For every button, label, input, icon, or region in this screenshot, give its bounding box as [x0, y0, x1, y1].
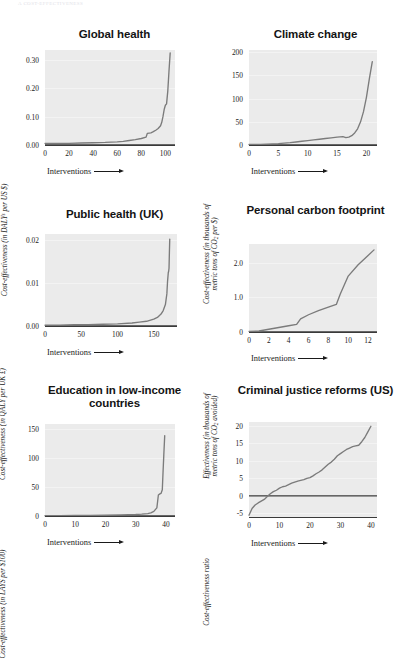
chart-title: Personal carbon footprint [235, 204, 396, 217]
y-tick-label: 5 [239, 474, 243, 483]
x-tick-label: 2 [267, 336, 271, 345]
arrow-right-icon [94, 540, 124, 546]
y-tick-label: 200 [232, 48, 243, 57]
x-tick-label: 8 [327, 336, 331, 345]
y-tick-label: 150 [232, 71, 243, 80]
plot-1: 05010015020005101520Interventions [249, 50, 377, 191]
x-axis-title-text: Interventions [47, 167, 91, 176]
chart-panel-global-health: Global health Cost-effectiveness (in DAL… [0, 22, 201, 202]
x-tick-label: 10 [304, 149, 311, 158]
y-tick-label: 1.0 [234, 293, 243, 302]
x-tick-label: 80 [138, 149, 145, 158]
x-tick-label: 40 [367, 521, 374, 530]
x-axis-line [249, 332, 377, 333]
arrow-right-icon [94, 350, 124, 356]
arrow-right-icon [94, 169, 124, 175]
y-tick-label: 0.00 [26, 141, 39, 150]
chart-panel-climate-change: Climate change Cost-effectiveness (in th… [201, 22, 402, 202]
x-tick-label: 30 [337, 521, 344, 530]
chart-title: Public health (UK) [34, 208, 195, 221]
series-line [249, 244, 377, 332]
chart-panel-criminal-justice: Criminal justice reforms (US) Cost-effec… [201, 382, 402, 576]
x-axis-line [45, 516, 175, 517]
page-header: A COST-EFFECTIVENESS [18, 1, 83, 6]
x-tick-label: 20 [102, 520, 109, 529]
arrow-right-icon [298, 169, 328, 175]
x-axis-title: Interventions [47, 538, 124, 547]
chart-panel-education-low-income: Education in low-income countries Cost-e… [0, 382, 201, 576]
y-tick-label: 100 [28, 453, 39, 462]
x-tick-label: 6 [307, 336, 311, 345]
x-tick-label: 30 [132, 520, 139, 529]
chart-title: Education in low-income countries [34, 384, 195, 410]
series-line [249, 50, 377, 145]
x-axis-line [249, 145, 377, 146]
x-tick-label: 10 [72, 520, 79, 529]
x-tick-label: 5 [276, 149, 280, 158]
y-tick-label: 150 [28, 424, 39, 433]
x-tick-label: 4 [287, 336, 291, 345]
y-tick-label: 2.0 [234, 258, 243, 267]
x-tick-label: 0 [43, 149, 47, 158]
x-tick-label: 40 [162, 520, 169, 529]
x-axis-title-text: Interventions [47, 348, 91, 357]
x-tick-label: 15 [333, 149, 340, 158]
plot-2: 0.000.010.02050100150Interventions [45, 234, 177, 372]
y-tick-label: 0 [239, 491, 243, 500]
x-tick-label: 20 [65, 149, 72, 158]
y-tick-label: 0 [35, 512, 39, 521]
y-tick-label: 100 [232, 94, 243, 103]
x-tick-label: 0 [43, 330, 47, 339]
arrow-right-icon [298, 541, 328, 547]
plot-5: -505101520010203040Interventions [249, 422, 377, 563]
x-axis-title-text: Interventions [251, 167, 295, 176]
y-tick-label: 0 [239, 141, 243, 150]
y-tick-label: 10 [236, 456, 243, 465]
x-axis-line [249, 517, 377, 518]
series-line [249, 422, 377, 517]
y-tick-label: -5 [237, 509, 243, 518]
x-axis-title: Interventions [47, 348, 124, 357]
y-tick-label: 0.02 [26, 236, 39, 245]
x-tick-label: 50 [78, 330, 85, 339]
x-tick-label: 40 [89, 149, 96, 158]
y-tick-label: 0.00 [26, 322, 39, 331]
y-tick-label: 0.01 [26, 279, 39, 288]
x-tick-label: 60 [114, 149, 121, 158]
chart-grid: Global health Cost-effectiveness (in DAL… [0, 22, 402, 576]
x-axis-title-text: Interventions [47, 538, 91, 547]
x-tick-label: 0 [247, 336, 251, 345]
y-tick-label: 0 [239, 328, 243, 337]
plot-0: 0.000.100.200.30020406080100Intervention… [45, 50, 175, 191]
x-tick-label: 12 [364, 336, 371, 345]
x-axis-title: Interventions [251, 167, 328, 176]
x-tick-label: 100 [160, 149, 171, 158]
x-tick-label: 150 [148, 330, 159, 339]
series-line [45, 50, 175, 145]
y-tick-label: 0.30 [26, 55, 39, 64]
plot-3: 01.02.0024681012Interventions [249, 244, 377, 378]
chart-panel-public-health-uk: Public health (UK) Cost-effectiveness (i… [0, 202, 201, 382]
y-tick-label: 20 [236, 421, 243, 430]
x-tick-label: 0 [247, 149, 251, 158]
y-axis-label: Cost-effectiveness ratio [203, 532, 219, 652]
x-tick-label: 100 [112, 330, 123, 339]
chart-title: Criminal justice reforms (US) [235, 384, 396, 397]
x-axis-line [45, 145, 175, 146]
x-axis-title: Interventions [251, 539, 328, 548]
series-line [45, 424, 175, 516]
y-tick-label: 50 [32, 482, 39, 491]
x-tick-label: 20 [306, 521, 313, 530]
chart-title: Global health [34, 28, 195, 41]
x-tick-label: 20 [363, 149, 370, 158]
arrow-right-icon [298, 356, 328, 362]
y-tick-label: 0.20 [26, 84, 39, 93]
y-tick-label: 15 [236, 439, 243, 448]
x-axis-title-text: Interventions [251, 539, 295, 548]
x-tick-label: 0 [43, 520, 47, 529]
x-tick-label: 10 [276, 521, 283, 530]
y-axis-label: Cost-effectiveness (in LAYS per $100) [0, 544, 15, 662]
chart-panel-personal-carbon-footprint: Personal carbon footprint Effectiveness … [201, 202, 402, 382]
x-axis-title-text: Interventions [251, 354, 295, 363]
x-axis-title: Interventions [251, 354, 328, 363]
